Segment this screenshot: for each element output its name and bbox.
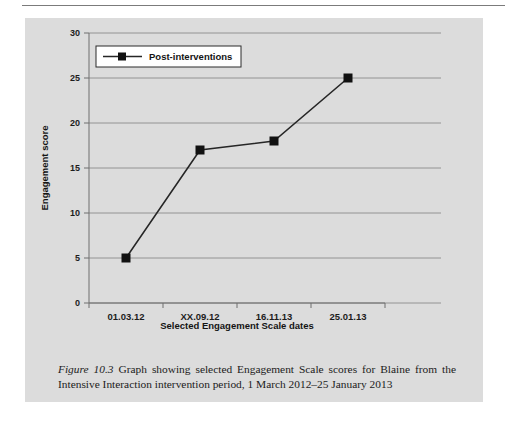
y-tick-label-10: 10 — [70, 208, 80, 218]
data-point-marker-2 — [270, 137, 279, 146]
y-axis-ticks: 051015202530 — [70, 28, 89, 308]
x-tick-label-0: 01.03.12 — [108, 311, 145, 322]
y-tick-label-5: 5 — [75, 253, 80, 263]
y-tick-label-20: 20 — [70, 118, 80, 128]
y-tick-label-15: 15 — [70, 163, 80, 173]
legend-square-marker-icon — [118, 53, 126, 61]
y-tick-label-30: 30 — [70, 28, 80, 38]
figure-caption-text: Graph showing selected Engagement Scale … — [58, 363, 456, 390]
figure-panel: 051015202530 01.03.12XX.09.1216.11.1325.… — [25, 18, 483, 402]
page-top-rule — [22, 5, 505, 6]
x-axis-title: Selected Engagement Scale dates — [160, 320, 314, 331]
chart-gridlines — [89, 33, 441, 303]
data-point-marker-3 — [344, 74, 353, 83]
legend-entry-label: Post-interventions — [149, 51, 232, 62]
y-axis-title: Engagement score — [39, 126, 50, 211]
chart-legend: Post-interventions — [96, 46, 241, 67]
y-tick-label-0: 0 — [75, 298, 80, 308]
data-point-marker-0 — [122, 254, 131, 263]
data-point-marker-1 — [196, 146, 205, 155]
figure-caption: Figure 10.3 Graph showing selected Engag… — [58, 362, 456, 392]
figure-caption-label: Figure 10.3 — [58, 363, 113, 375]
y-tick-label-25: 25 — [70, 73, 80, 83]
engagement-score-line-chart: 051015202530 01.03.12XX.09.1216.11.1325.… — [25, 18, 483, 338]
x-tick-label-3: 25.01.13 — [330, 311, 367, 322]
